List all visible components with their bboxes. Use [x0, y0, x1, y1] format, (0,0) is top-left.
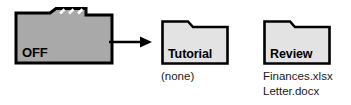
source-folder-label: OFF	[22, 46, 48, 59]
folder-diagram: OFF Tutorial (none) Review Finances.xlsx…	[0, 0, 351, 105]
list-item: Finances.xlsx	[263, 69, 333, 84]
list-item: Letter.docx	[263, 84, 333, 99]
target-folder-tutorial[interactable]: Tutorial	[161, 19, 229, 65]
tutorial-contents-list: (none)	[161, 69, 194, 84]
target-folder-review-label: Review	[270, 48, 312, 61]
target-folder-review[interactable]: Review	[263, 19, 331, 65]
arrow-right-icon	[108, 34, 154, 50]
target-folder-tutorial-label: Tutorial	[168, 48, 212, 61]
review-contents-list: Finances.xlsx Letter.docx	[263, 69, 333, 99]
source-folder[interactable]: OFF	[14, 7, 114, 65]
list-item: (none)	[161, 69, 194, 84]
